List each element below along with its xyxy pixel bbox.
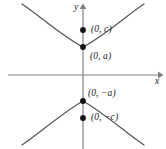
hyperbola-figure: (0, c) (0, a) (0, −a) (0, −c) y x: [0, 0, 166, 149]
point-vertex-lower: [80, 98, 86, 104]
label-vertex-lower: (0, −a): [88, 89, 116, 99]
point-focus-upper: [80, 27, 86, 33]
figure-canvas: [0, 0, 166, 149]
y-axis-arrow-icon: [80, 4, 87, 10]
point-vertex-upper: [80, 44, 86, 50]
label-focus-lower: (0, −c): [91, 113, 118, 123]
label-focus-upper: (0, c): [91, 25, 112, 35]
y-axis-label: y: [74, 3, 78, 13]
label-vertex-upper: (0, a): [90, 52, 111, 62]
x-axis-label: x: [155, 77, 159, 87]
point-focus-lower: [80, 115, 86, 121]
